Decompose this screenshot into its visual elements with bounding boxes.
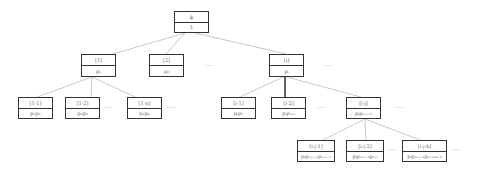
node-label: [1·1] bbox=[19, 98, 52, 109]
ellipsis: ··· bbox=[388, 146, 396, 154]
node-value: pᵢpᵢ₊ⱼ₋₁pᵢ₊ⱼ₊ₖ₋₂ bbox=[403, 152, 446, 162]
tree-node-nijk: [i·j·k]pᵢpᵢ₊ⱼ₋₁pᵢ₊ⱼ₊ₖ₋₂ bbox=[402, 140, 447, 162]
ellipsis: ··· bbox=[167, 104, 175, 112]
tree-edge bbox=[92, 77, 135, 97]
node-value: p₁ bbox=[82, 66, 115, 76]
node-value: p₁pₙ bbox=[128, 109, 161, 119]
tree-edge bbox=[287, 77, 361, 97]
tree-edge bbox=[365, 119, 420, 140]
tree-node-n1n: [1·n]p₁pₙ bbox=[127, 97, 162, 119]
tree-node-ni2: [i·2]pᵢpᵢ₊₁ bbox=[271, 97, 306, 119]
ellipsis: ··· bbox=[452, 146, 460, 154]
node-value: pᵢpᵢ₊ⱼ₋₁pᵢ₊ⱼ bbox=[347, 152, 383, 162]
node-value: p₁p₁ bbox=[19, 109, 52, 119]
node-label: [i·1] bbox=[222, 98, 255, 109]
node-label: [i·j·k] bbox=[403, 141, 446, 152]
ellipsis: ··· bbox=[317, 104, 325, 112]
node-label: ϕ bbox=[175, 12, 208, 23]
tree-edge bbox=[91, 77, 92, 97]
tree-node-nij2: [i·j·2]pᵢpᵢ₊ⱼ₋₁pᵢ₊ⱼ bbox=[346, 140, 384, 162]
tree-node-n11: [1·1]p₁p₁ bbox=[18, 97, 53, 119]
tree-node-root: ϕ1 bbox=[174, 11, 209, 33]
node-value: 1 bbox=[175, 23, 208, 33]
node-label: [i·j·2] bbox=[347, 141, 383, 152]
tree-edge bbox=[365, 119, 366, 140]
ellipsis: ··· bbox=[396, 104, 404, 112]
tree-edge bbox=[195, 33, 286, 54]
node-label: [2] bbox=[150, 55, 183, 66]
tree-node-n12: [1·2]p₁p₂ bbox=[65, 97, 100, 119]
tree-edge bbox=[240, 77, 283, 97]
ellipsis: ··· bbox=[104, 104, 112, 112]
tree-node-n2: [2]p₂ bbox=[149, 54, 184, 77]
tree-node-ni1: [i·1]pᵢp₁ bbox=[221, 97, 256, 119]
node-label: [1·n] bbox=[128, 98, 161, 109]
node-value: pᵢp₁ bbox=[222, 109, 255, 119]
ellipsis: ··· bbox=[324, 62, 332, 70]
node-label: [i·j·1] bbox=[298, 141, 334, 152]
tree-node-ni: [i]pᵢ bbox=[269, 54, 304, 77]
node-value: pᵢpᵢ₊₁ bbox=[272, 109, 305, 119]
node-value: pᵢ bbox=[270, 66, 303, 76]
tree-node-nij1: [i·j·1]pᵢpᵢ₊ⱼ₋₁pᵢ₊ⱼ₋₁ bbox=[297, 140, 335, 162]
node-value: pᵢpᵢ₊ⱼ₋₁ bbox=[347, 109, 380, 119]
node-label: [1·2] bbox=[66, 98, 99, 109]
tree-edge bbox=[323, 119, 365, 140]
node-value: p₂ bbox=[150, 66, 183, 76]
tree-node-n1: [1]p₁ bbox=[81, 54, 116, 77]
node-label: [i·j] bbox=[347, 98, 380, 109]
node-value: pᵢpᵢ₊ⱼ₋₁pᵢ₊ⱼ₋₁ bbox=[298, 152, 334, 162]
node-value: p₁p₂ bbox=[66, 109, 99, 119]
tree-edge bbox=[37, 77, 92, 97]
node-label: [i] bbox=[270, 55, 303, 66]
tree-edge bbox=[113, 33, 185, 54]
ellipsis: ··· bbox=[205, 62, 213, 70]
node-label: [1] bbox=[82, 55, 115, 66]
tree-node-nij: [i·j]pᵢpᵢ₊ⱼ₋₁ bbox=[346, 97, 381, 119]
node-label: [i·2] bbox=[272, 98, 305, 109]
